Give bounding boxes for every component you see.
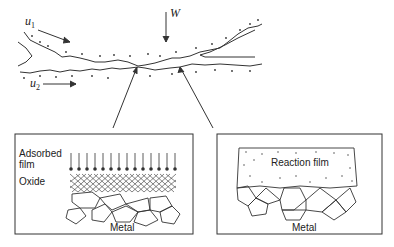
adsorbed-film-label: Adsorbed film [19, 148, 63, 170]
metal-grains-left [66, 192, 180, 226]
reaction-film-label: Reaction film [271, 157, 329, 168]
debris-particles [23, 19, 259, 79]
upper-surface-inner [200, 30, 255, 57]
right-panel [217, 134, 382, 234]
u2-label: u2 [30, 78, 40, 93]
leader-left [113, 67, 137, 128]
leader-right [180, 67, 213, 128]
diagram-canvas [0, 0, 394, 247]
adsorbed-molecules [71, 153, 175, 168]
metal-grains-right [237, 186, 356, 220]
oxide-lattice [70, 174, 176, 192]
load-label: W [170, 8, 180, 19]
left-wedge [18, 42, 32, 66]
oxide-label: Oxide [19, 176, 45, 187]
u1-label: u1 [25, 16, 35, 31]
reaction-film-outline [237, 148, 357, 188]
metal-label-left: Metal [110, 222, 134, 233]
metal-label-right: Metal [292, 222, 316, 233]
upper-surface [24, 24, 262, 66]
